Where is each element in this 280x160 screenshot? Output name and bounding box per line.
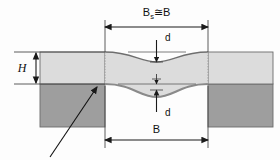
label-deflection-upper: d (165, 32, 171, 43)
label-bottom-width: B (153, 123, 160, 135)
right-lower-block (208, 84, 273, 127)
right-upper-band (208, 52, 273, 84)
label-height: H (17, 61, 28, 75)
technical-diagram: Bs≅B H d d B (0, 0, 280, 160)
label-top-width-base: B (143, 6, 150, 18)
label-top-width-relation: ≅ (154, 6, 163, 18)
left-upper-band (40, 52, 105, 84)
diagram-canvas: Bs≅B H d d B (0, 0, 280, 160)
label-deflection-lower: d (165, 107, 171, 118)
label-top-width: Bs≅B (143, 6, 170, 21)
label-top-width-compare: B (163, 6, 170, 18)
